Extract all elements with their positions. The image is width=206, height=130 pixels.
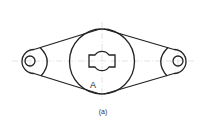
- left-divider-arc: [40, 48, 47, 77]
- left-lobe-arc: [22, 50, 34, 74]
- right-lobe-arc: [174, 50, 186, 74]
- upper-left-tangent: [34, 29, 100, 50]
- figure-caption: (a): [0, 108, 206, 115]
- upper-right-tangent: [104, 29, 174, 50]
- outline: [22, 29, 186, 94]
- lower-right-tangent: [104, 74, 174, 95]
- centerlines: [12, 22, 196, 100]
- right-divider-arc: [161, 48, 168, 77]
- part-label: A: [90, 80, 96, 90]
